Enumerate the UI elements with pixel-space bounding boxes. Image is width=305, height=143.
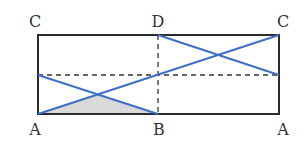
shaded-triangle	[38, 95, 158, 114]
label-top-left-c: C	[25, 14, 45, 30]
label-top-right-c: C	[273, 14, 293, 30]
label-bottom-left-a: A	[25, 122, 45, 138]
label-bottom-right-a: A	[273, 122, 293, 138]
label-bottom-mid-b: B	[149, 122, 169, 138]
label-top-mid-d: D	[148, 14, 168, 30]
diagram: C D C A B A	[0, 0, 305, 143]
